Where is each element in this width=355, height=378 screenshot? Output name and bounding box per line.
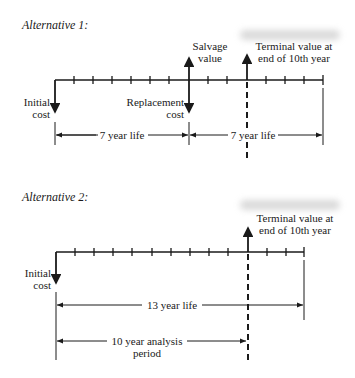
alternative-2-title: Alternative 2: <box>22 191 88 203</box>
alt2-timeline <box>56 247 304 257</box>
alt2-span-13-label: 13 year life <box>142 299 202 311</box>
alt1-salvage-value-label: Salvage value <box>185 40 235 64</box>
alt1-initial-cost-label: Initial cost <box>14 96 50 120</box>
alt2-terminal-value-label: Terminal value at end of 10th year <box>251 212 339 236</box>
alt1-span-2-label: 7 year life <box>228 129 278 141</box>
alt1-replacement-cost-label: Replacement cost <box>118 96 184 120</box>
alt1-span-1-label: 7 year life <box>96 129 148 141</box>
alt2-initial-cost-label: Initial cost <box>14 267 51 291</box>
alt1-terminal-value-label: Terminal value at end of 10th year <box>250 40 338 64</box>
alt2-analysis-period-label: 10 year analysis period <box>104 335 190 359</box>
